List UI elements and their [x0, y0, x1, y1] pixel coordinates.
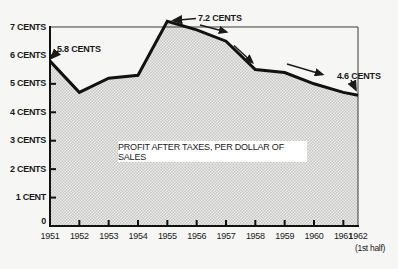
x-axis-first-half-note: (1st half) — [348, 243, 392, 253]
callout-arrow-1962 — [351, 80, 356, 90]
origin-label: 0 — [4, 216, 46, 226]
callout-label-1951: 5.8 CENTS — [57, 44, 101, 54]
y-axis-label: 4 CENTS — [4, 107, 46, 118]
x-axis-label: 1954 — [123, 231, 153, 241]
x-axis-label: 1956 — [182, 231, 212, 241]
y-axis-label: 3 CENTS — [4, 135, 46, 146]
y-axis-label: 6 CENTS — [4, 50, 46, 61]
y-axis-label: 2 CENTS — [4, 164, 46, 175]
y-axis-label: 7 CENTS — [4, 22, 46, 33]
callout-arrow-1955 — [174, 19, 197, 21]
x-axis-label: 1952 — [64, 231, 94, 241]
x-axis-label: 1962 — [343, 231, 373, 241]
x-axis-label: 1960 — [299, 231, 329, 241]
y-axis-label: 5 CENTS — [4, 78, 46, 89]
trend-arrow-1959-1961 — [287, 64, 323, 75]
callout-label-1962: 4.6 CENTS — [337, 71, 381, 81]
y-axis-label: 1 CENT — [4, 192, 46, 203]
x-axis-label: 1955 — [152, 231, 182, 241]
x-axis-label: 1958 — [240, 231, 270, 241]
x-axis-label: 1959 — [270, 231, 300, 241]
profit-after-taxes-chart — [0, 0, 398, 269]
callout-label-1955: 7.2 CENTS — [198, 13, 242, 23]
x-axis-label: 1957 — [211, 231, 241, 241]
trend-arrow-1955-1957 — [200, 25, 227, 32]
chart-page: 7 CENTS6 CENTS5 CENTS4 CENTS3 CENTS2 CEN… — [0, 0, 398, 269]
chart-title: PROFIT AFTER TAXES, PER DOLLAR OF SALES — [118, 141, 307, 162]
x-axis-label: 1951 — [35, 231, 65, 241]
x-axis-label: 1953 — [94, 231, 124, 241]
